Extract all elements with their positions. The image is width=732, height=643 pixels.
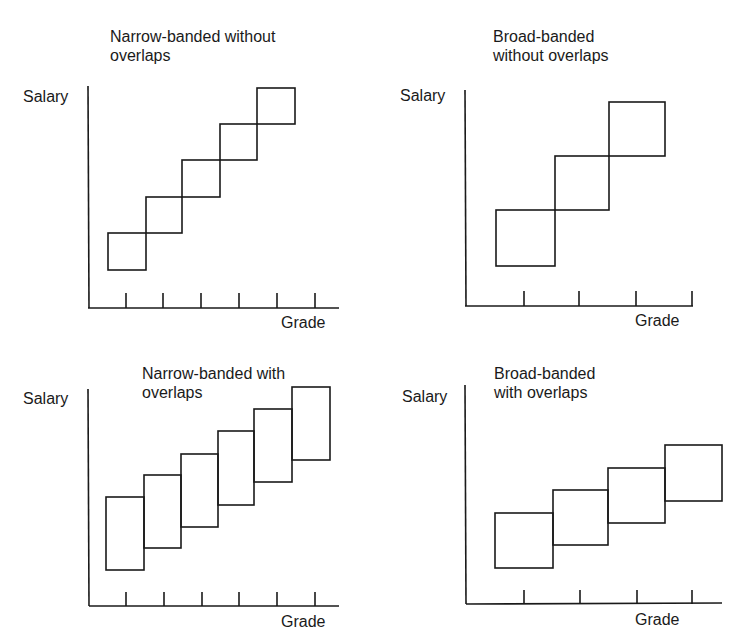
band-grade-5	[254, 409, 292, 482]
band-grade-3	[609, 102, 665, 156]
band-grade-3	[182, 160, 220, 197]
band-grade-4	[220, 124, 257, 160]
band-grade-1	[106, 497, 144, 570]
salary-bands	[108, 88, 295, 270]
x-ticks	[524, 590, 692, 604]
band-grade-2	[553, 490, 608, 545]
panel-narrow-no-overlap	[88, 86, 339, 308]
band-grade-1	[496, 210, 555, 266]
y-axis	[465, 385, 466, 604]
band-grade-3	[181, 454, 218, 527]
band-grade-4	[665, 445, 722, 501]
band-grade-6	[292, 387, 330, 460]
band-grade-2	[144, 475, 181, 548]
band-grade-5	[257, 88, 295, 124]
x-ticks	[524, 291, 692, 306]
salary-bands	[496, 102, 665, 266]
panel-broad-no-overlap	[465, 90, 693, 306]
y-axis	[465, 90, 466, 306]
panel-narrow-overlap	[88, 387, 339, 606]
salary-bands	[106, 387, 330, 570]
band-grade-2	[146, 197, 182, 233]
band-grade-2	[555, 156, 609, 210]
salary-band-diagrams	[0, 0, 732, 643]
salary-bands	[495, 445, 722, 568]
panel-broad-overlap	[465, 385, 722, 604]
y-axis	[88, 389, 89, 606]
x-ticks	[126, 293, 315, 308]
band-grade-1	[108, 233, 146, 270]
band-grade-4	[218, 431, 254, 505]
x-axis	[466, 603, 722, 604]
band-grade-1	[495, 513, 553, 568]
x-ticks	[126, 592, 315, 606]
band-grade-3	[608, 468, 665, 523]
y-axis	[88, 86, 89, 308]
